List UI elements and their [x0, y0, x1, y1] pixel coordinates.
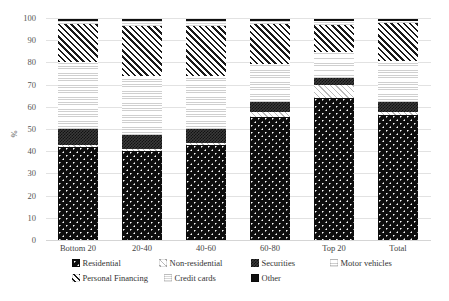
- legend-swatch-personal-financing-icon: [72, 274, 80, 282]
- gridline-100: [46, 18, 431, 19]
- segment-20-40-motor-vehicles: [122, 76, 162, 136]
- bar-60-80: [250, 19, 290, 241]
- bar-top-20: [314, 19, 354, 241]
- segment-total-credit-cards: [378, 21, 418, 23]
- y-axis-title: %: [9, 130, 19, 137]
- legend-label-securities: Securities: [262, 258, 296, 268]
- legend-item-securities: Securities: [251, 258, 295, 268]
- x-tick-top-20: Top 20: [322, 243, 346, 253]
- gridline-90: [46, 40, 431, 41]
- legend-label-residential: Residential: [83, 258, 121, 268]
- gridline-20: [46, 196, 431, 197]
- plot-area: [46, 18, 431, 240]
- stacked-bar-chart: 0 10 20 30 40 50 60 70 80 90 100 % Botto…: [0, 0, 449, 301]
- legend-label-personal-financing: Personal Financing: [83, 273, 148, 283]
- x-axis-tick-labels: Bottom 20 20-40 40-60 60-80 Top 20 Total: [46, 243, 431, 257]
- segment-total-residential: [378, 115, 418, 240]
- gridline-40: [46, 151, 431, 152]
- segment-top-20-residential: [314, 98, 354, 240]
- legend-item-other: Other: [251, 273, 281, 283]
- bar-20-40: [122, 19, 162, 241]
- legend-row-2: Personal Financing Credit cards Other: [0, 273, 449, 288]
- segment-bottom-20-personal-financing: [58, 24, 98, 62]
- segment-40-60-residential: [186, 145, 226, 240]
- segment-top-20-securities: [314, 78, 354, 85]
- gridline-70: [46, 85, 431, 86]
- segment-bottom-20-residential: [58, 147, 98, 240]
- segment-bottom-20-securities: [58, 129, 98, 145]
- segment-bottom-20-motor-vehicles: [58, 62, 98, 130]
- legend-label-non-residential: Non-residential: [170, 258, 223, 268]
- segment-60-80-non-residential: [250, 112, 290, 118]
- y-tick-50: 50: [28, 124, 37, 134]
- y-tick-90: 90: [28, 35, 37, 45]
- segment-bottom-20-credit-cards: [58, 21, 98, 24]
- segment-total-motor-vehicles: [378, 61, 418, 102]
- gridline-30: [46, 173, 431, 174]
- segment-60-80-personal-financing: [250, 24, 290, 64]
- y-tick-30: 30: [28, 168, 37, 178]
- legend-swatch-motor-vehicles-icon: [330, 259, 338, 267]
- y-tick-10: 10: [28, 213, 37, 223]
- segment-40-60-non-residential: [186, 143, 226, 145]
- legend-row-1: Residential Non-residential Securities M…: [0, 258, 449, 273]
- legend-label-credit-cards: Credit cards: [175, 273, 216, 283]
- segment-40-60-motor-vehicles: [186, 76, 226, 129]
- x-tick-total: Total: [389, 243, 406, 253]
- segment-20-40-personal-financing: [122, 26, 162, 76]
- y-tick-100: 100: [23, 13, 36, 23]
- segment-top-20-personal-financing: [314, 25, 354, 53]
- y-tick-80: 80: [28, 57, 37, 67]
- legend-item-residential: Residential: [72, 258, 121, 268]
- y-tick-70: 70: [28, 80, 37, 90]
- y-tick-40: 40: [28, 146, 37, 156]
- x-tick-40-60: 40-60: [196, 243, 216, 253]
- segment-20-40-non-residential: [122, 149, 162, 151]
- segment-top-20-other: [314, 19, 354, 21]
- legend-item-motor-vehicles: Motor vehicles: [330, 258, 392, 268]
- segment-20-40-securities: [122, 135, 162, 149]
- y-axis-tick-labels: 0 10 20 30 40 50 60 70 80 90 100: [0, 18, 40, 240]
- y-tick-0: 0: [32, 235, 36, 245]
- segment-40-60-securities: [186, 129, 226, 142]
- segment-top-20-non-residential: [314, 85, 354, 98]
- bar-40-60: [186, 19, 226, 241]
- segment-40-60-credit-cards: [186, 21, 226, 27]
- legend-swatch-securities-icon: [251, 259, 259, 267]
- segment-top-20-motor-vehicles: [314, 52, 354, 77]
- segment-20-40-credit-cards: [122, 21, 162, 26]
- segment-60-80-motor-vehicles: [250, 64, 290, 102]
- x-tick-20-40: 20-40: [132, 243, 152, 253]
- segment-60-80-securities: [250, 102, 290, 112]
- segment-60-80-residential: [250, 117, 290, 240]
- segment-20-40-other: [122, 19, 162, 21]
- legend-item-credit-cards: Credit cards: [164, 273, 216, 283]
- segment-total-non-residential: [378, 112, 418, 115]
- legend-swatch-non-residential-icon: [159, 259, 167, 267]
- gridline-10: [46, 218, 431, 219]
- gridline-80: [46, 62, 431, 63]
- legend-label-motor-vehicles: Motor vehicles: [341, 258, 392, 268]
- segment-total-personal-financing: [378, 23, 418, 61]
- legend-item-personal-financing: Personal Financing: [72, 273, 148, 283]
- bar-total: [378, 19, 418, 241]
- chart-legend: Residential Non-residential Securities M…: [0, 258, 449, 288]
- segment-total-securities: [378, 102, 418, 112]
- segment-40-60-other: [186, 19, 226, 21]
- legend-item-non-residential: Non-residential: [159, 258, 222, 268]
- legend-swatch-residential-icon: [72, 259, 80, 267]
- legend-swatch-other-icon: [251, 274, 259, 282]
- x-tick-60-80: 60-80: [260, 243, 280, 253]
- y-tick-60: 60: [28, 102, 37, 112]
- segment-bottom-20-other: [58, 19, 98, 21]
- legend-label-other: Other: [262, 273, 281, 283]
- segment-60-80-credit-cards: [250, 21, 290, 24]
- gridline-50: [46, 129, 431, 130]
- segment-40-60-personal-financing: [186, 26, 226, 76]
- segment-60-80-other: [250, 19, 290, 21]
- bar-bottom-20: [58, 19, 98, 241]
- legend-swatch-credit-cards-icon: [164, 274, 172, 282]
- y-tick-20: 20: [28, 191, 37, 201]
- segment-bottom-20-non-residential: [58, 145, 98, 147]
- gridline-60: [46, 107, 431, 108]
